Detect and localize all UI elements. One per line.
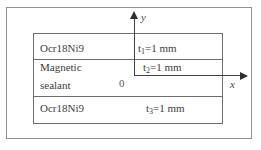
thickness2-value: =1 mm (150, 61, 182, 73)
x-axis-label: x (230, 78, 235, 91)
y-axis-label: y (141, 11, 146, 24)
layer1-material-label: Ocr18Ni9 (40, 42, 84, 55)
layer-divider-bottom (33, 96, 223, 97)
layered-structure-figure: Ocr18Ni9 t1=1 mm Magnetic sealant t2=1 m… (0, 0, 261, 150)
thickness3-value: =1 mm (153, 102, 185, 114)
layer3-material-label: Ocr18Ni9 (40, 102, 84, 115)
layer2-material-label-line2: sealant (40, 79, 71, 92)
x-axis-arrowhead-icon (240, 72, 248, 80)
layer2-material-label-line1: Magnetic (40, 61, 82, 74)
y-axis-arrowhead-icon (130, 11, 138, 19)
origin-label: 0 (119, 77, 125, 90)
thickness1-value: =1 mm (145, 42, 177, 54)
y-axis-line (134, 15, 135, 76)
layer3-thickness-label: t3=1 mm (146, 102, 185, 115)
layer1-thickness-label: t1=1 mm (138, 42, 177, 55)
layer2-thickness-label: t2=1 mm (143, 61, 182, 74)
x-axis-line (134, 75, 241, 76)
